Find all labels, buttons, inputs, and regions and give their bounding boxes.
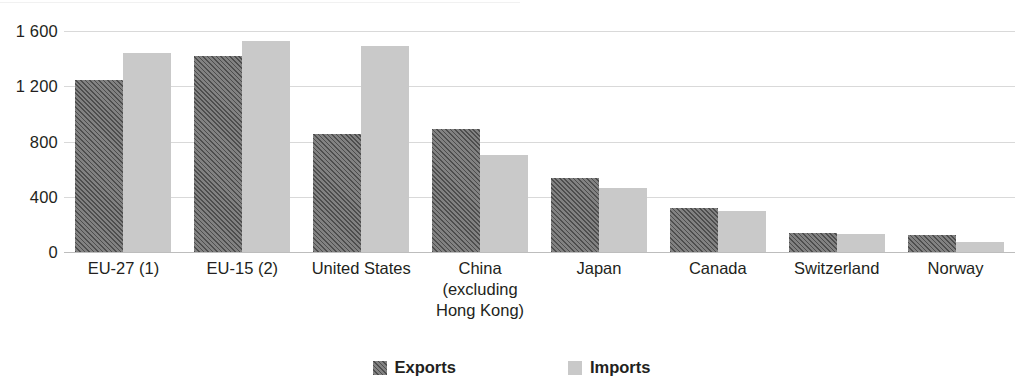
- chart-legend: ExportsImports: [0, 358, 1023, 377]
- y-axis-tick-label: 1 200: [16, 77, 58, 96]
- axis-baseline: [64, 252, 1015, 253]
- plot-area: [64, 31, 1015, 252]
- bar-exports: [194, 56, 242, 252]
- bar-imports: [123, 53, 171, 252]
- bar-group: [64, 31, 183, 252]
- bar-group: [302, 31, 421, 252]
- bar-group: [421, 31, 540, 252]
- legend-label: Imports: [590, 358, 651, 377]
- bar-group: [658, 31, 777, 252]
- legend-item-imports[interactable]: Imports: [568, 358, 651, 377]
- bar-imports: [242, 41, 290, 252]
- x-axis-category-label: Norway: [896, 258, 1015, 321]
- bar-exports: [313, 134, 361, 252]
- y-axis-tick-label: 400: [30, 187, 58, 206]
- legend-label: Exports: [395, 358, 456, 377]
- x-axis-category-label: EU-27 (1): [64, 258, 183, 321]
- bar-exports: [908, 235, 956, 252]
- imports-swatch: [568, 361, 582, 375]
- legend-item-exports[interactable]: Exports: [373, 358, 456, 377]
- x-axis-category-label: Japan: [540, 258, 659, 321]
- bar-imports: [837, 234, 885, 252]
- y-axis-tick-label: 0: [49, 243, 58, 262]
- y-axis-tick-label: 800: [30, 132, 58, 151]
- bar-chart: 04008001 2001 600 EU-27 (1)EU-15 (2)Unit…: [0, 0, 1023, 391]
- bar-exports: [75, 80, 123, 252]
- bar-exports: [789, 233, 837, 252]
- x-axis-category-label: United States: [302, 258, 421, 321]
- x-axis-category-label: Switzerland: [777, 258, 896, 321]
- x-axis-category-label: EU-15 (2): [183, 258, 302, 321]
- bar-groups: [64, 31, 1015, 252]
- bar-group: [540, 31, 659, 252]
- x-axis: EU-27 (1)EU-15 (2)United StatesChina(exc…: [64, 258, 1015, 321]
- bar-group: [777, 31, 896, 252]
- y-axis-tick-label: 1 600: [16, 22, 58, 41]
- bar-imports: [599, 188, 647, 252]
- x-axis-category-label: China(excludingHong Kong): [421, 258, 540, 321]
- bar-exports: [432, 129, 480, 252]
- bar-group: [183, 31, 302, 252]
- bar-exports: [551, 178, 599, 252]
- x-axis-category-label: Canada: [658, 258, 777, 321]
- exports-swatch: [373, 361, 387, 375]
- bar-imports: [480, 155, 528, 252]
- top-edge-artifact: [0, 2, 520, 3]
- bar-group: [896, 31, 1015, 252]
- bar-imports: [956, 242, 1004, 252]
- bar-imports: [718, 211, 766, 252]
- y-axis: 04008001 2001 600: [0, 31, 58, 252]
- bar-exports: [670, 208, 718, 252]
- bar-imports: [361, 46, 409, 252]
